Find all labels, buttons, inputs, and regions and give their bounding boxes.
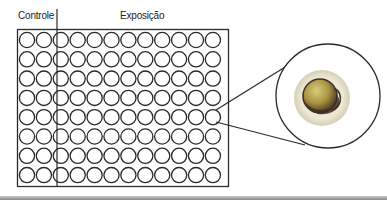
exposure-well: [138, 52, 153, 67]
exposure-well: [138, 71, 153, 86]
exposure-well: [87, 110, 102, 125]
control-well: [19, 52, 34, 67]
exposure-well: [188, 110, 203, 125]
exposure-well: [188, 168, 203, 183]
exposure-well: [188, 32, 203, 47]
exposure-well: [155, 148, 170, 163]
control-well: [36, 71, 51, 86]
exposure-well: [70, 52, 85, 67]
exposure-well: [70, 148, 85, 163]
exposure-well: [87, 52, 102, 67]
control-well: [36, 90, 51, 105]
exposure-well: [70, 71, 85, 86]
exposure-well: [121, 90, 136, 105]
exposure-well: [138, 148, 153, 163]
exposure-well: [70, 32, 85, 47]
exposure-well: [172, 129, 187, 144]
exposure-well: [155, 71, 170, 86]
embryo-image: [294, 70, 350, 126]
exposure-well: [121, 168, 136, 183]
exposure-well: [87, 90, 102, 105]
exposure-well: [188, 52, 203, 67]
exposure-well: [172, 148, 187, 163]
exposure-well: [205, 32, 220, 47]
control-well: [19, 90, 34, 105]
exposure-well: [188, 148, 203, 163]
control-well: [36, 148, 51, 163]
exposure-well: [172, 32, 187, 47]
exposure-well: [121, 129, 136, 144]
exposure-well: [205, 168, 220, 183]
control-well: [19, 168, 34, 183]
exposure-well: [70, 90, 85, 105]
exposure-well: [104, 168, 119, 183]
exposure-well: [121, 110, 136, 125]
exposure-well: [205, 90, 220, 105]
wells-grid: [19, 32, 220, 182]
control-well: [19, 148, 34, 163]
exposure-well: [53, 148, 68, 163]
exposure-well: [104, 71, 119, 86]
exposure-well: [205, 71, 220, 86]
exposure-well: [53, 168, 68, 183]
control-well: [19, 110, 34, 125]
exposure-well: [87, 129, 102, 144]
control-well: [19, 129, 34, 144]
exposure-well: [188, 129, 203, 144]
exposure-well: [70, 168, 85, 183]
exposure-well: [155, 110, 170, 125]
exposure-well: [155, 32, 170, 47]
exposure-well: [155, 52, 170, 67]
exposure-well: [104, 148, 119, 163]
exposure-well: [121, 71, 136, 86]
exposure-well: [205, 148, 220, 163]
exposure-well: [53, 71, 68, 86]
well-plate-diagram: [0, 0, 387, 200]
exposure-well: [53, 110, 68, 125]
exposure-well: [53, 129, 68, 144]
control-well: [36, 52, 51, 67]
exposure-well: [188, 90, 203, 105]
exposure-well: [87, 148, 102, 163]
exposure-well: [121, 52, 136, 67]
control-well: [36, 32, 51, 47]
exposure-well: [121, 148, 136, 163]
exposure-well: [155, 129, 170, 144]
control-well: [19, 32, 34, 47]
exposure-well: [53, 32, 68, 47]
exposure-well: [87, 71, 102, 86]
exposure-well: [138, 90, 153, 105]
exposure-well: [172, 168, 187, 183]
exposure-well: [104, 110, 119, 125]
exposure-well: [172, 90, 187, 105]
exposure-well: [87, 32, 102, 47]
exposure-well: [188, 71, 203, 86]
exposure-well: [121, 32, 136, 47]
exposure-well: [104, 32, 119, 47]
exposure-well: [205, 129, 220, 144]
exposure-well: [104, 129, 119, 144]
exposure-well: [138, 32, 153, 47]
exposure-well: [155, 168, 170, 183]
exposure-well: [155, 90, 170, 105]
exposure-well: [53, 52, 68, 67]
exposure-well: [104, 52, 119, 67]
control-well: [36, 110, 51, 125]
control-well: [19, 71, 34, 86]
exposure-well: [104, 90, 119, 105]
exposure-well: [70, 129, 85, 144]
control-well: [36, 129, 51, 144]
exposure-well: [87, 168, 102, 183]
control-well: [36, 168, 51, 183]
exposure-well: [70, 110, 85, 125]
exposure-well: [172, 52, 187, 67]
exposure-well: [138, 110, 153, 125]
exposure-well: [53, 90, 68, 105]
exposure-well: [138, 129, 153, 144]
exposure-well: [138, 168, 153, 183]
exposure-well: [172, 71, 187, 86]
exposure-well: [172, 110, 187, 125]
bottom-border: [0, 196, 387, 200]
exposure-well: [205, 52, 220, 67]
